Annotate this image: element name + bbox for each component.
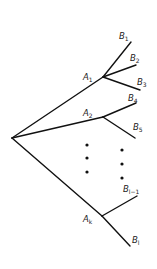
leaf-label-b4: B4 (128, 93, 138, 104)
edge-a1-b3 (103, 77, 140, 90)
edge-ak-bl-1 (102, 196, 137, 216)
ellipsis-dot (120, 162, 123, 165)
edge-a2-b4 (103, 103, 136, 117)
leaf-label-bl-1: Bl−1 (123, 184, 140, 195)
edge-a2-b5 (103, 117, 135, 138)
ellipsis-dot (85, 143, 88, 146)
ellipsis-dot (120, 176, 123, 179)
node-label-a2: A2 (82, 108, 93, 119)
leaf-label-b5: B5 (133, 122, 143, 133)
ellipsis-dot (85, 170, 88, 173)
leaf-label-b2: B2 (130, 53, 140, 64)
tree-diagram: A1A2AkB1B2B3B4B5Bl−1Bl (0, 0, 157, 269)
tree-edges (12, 42, 140, 246)
ellipsis-dot (85, 156, 88, 159)
leaf-label-b3: B3 (137, 77, 147, 88)
edge-root-a1 (12, 77, 103, 138)
ellipsis-dots (85, 143, 123, 179)
edge-root-ak (12, 138, 102, 216)
node-label-ak: Ak (82, 214, 93, 225)
leaf-label-b1: B1 (119, 31, 129, 42)
ellipsis-dot (120, 148, 123, 151)
node-label-a1: A1 (82, 72, 93, 83)
edge-root-a2 (12, 117, 103, 138)
edge-ak-bl (102, 216, 130, 246)
leaf-label-bl: Bl (132, 235, 140, 246)
